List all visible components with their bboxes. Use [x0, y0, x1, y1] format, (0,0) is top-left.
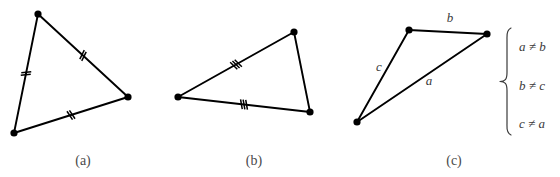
caption-c: (c) — [446, 153, 462, 169]
panel-b: (b) — [174, 28, 313, 169]
edge-top-bottom — [294, 32, 310, 112]
side-label-c: c — [376, 59, 382, 74]
relation-c-ne-a: c ≠ a — [519, 116, 545, 131]
panel-c: b c a a ≠ b b ≠ c c ≠ a (c) — [353, 10, 546, 169]
panel-a-ticks — [21, 50, 86, 119]
tick-mark — [241, 99, 243, 109]
figure-root: (a) (b) b c a a ≠ b b — [0, 0, 560, 177]
tick-mark — [21, 72, 31, 73]
vertex-dot — [290, 28, 297, 35]
panel-c-edges — [357, 30, 487, 122]
vertex-dot — [306, 108, 313, 115]
edge-a — [357, 34, 487, 122]
vertex-dot — [174, 93, 181, 100]
edge-b — [409, 30, 487, 34]
vertex-dot — [10, 129, 17, 136]
tick-mark — [243, 100, 245, 110]
relations-brace — [500, 28, 511, 135]
edge-bottom-top — [14, 14, 38, 133]
vertex-dot — [124, 93, 131, 100]
geometry-figure: (a) (b) b c a a ≠ b b — [0, 0, 560, 177]
edge-c — [357, 30, 409, 122]
side-label-b: b — [447, 10, 454, 25]
relation-b-ne-c: b ≠ c — [519, 78, 545, 93]
vertex-dot — [405, 26, 412, 33]
caption-b: (b) — [246, 153, 263, 169]
caption-a: (a) — [75, 153, 91, 169]
vertex-dot — [34, 10, 41, 17]
panel-a: (a) — [10, 10, 131, 169]
side-label-a: a — [426, 73, 433, 88]
vertex-dot — [353, 118, 360, 125]
vertex-dot — [483, 30, 490, 37]
relation-a-ne-b: a ≠ b — [519, 39, 546, 54]
edge-right-bottom — [14, 97, 128, 133]
edge-top-right — [38, 14, 128, 97]
panel-a-edges — [14, 14, 128, 133]
tick-mark — [246, 100, 248, 110]
panel-b-edges — [178, 32, 310, 112]
tick-mark — [21, 74, 31, 75]
